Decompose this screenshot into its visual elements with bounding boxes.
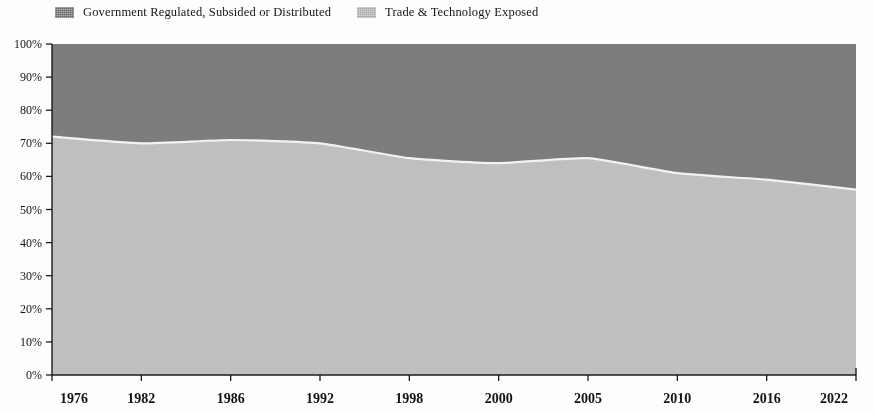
- y-axis-tick-label: 50%: [20, 203, 42, 217]
- x-axis-tick-label: 1998: [395, 391, 423, 406]
- legend-item-government-regulated[interactable]: Government Regulated, Subsided or Distri…: [55, 5, 331, 20]
- x-axis-tick-label: 2000: [485, 391, 513, 406]
- x-axis-tick-label: 1976: [60, 391, 88, 406]
- x-axis-tick-label: 2016: [753, 391, 781, 406]
- legend-item-trade-technology-exposed[interactable]: Trade & Technology Exposed: [357, 5, 538, 20]
- x-axis-tick-label: 2005: [574, 391, 602, 406]
- y-axis-tick-label: 90%: [20, 70, 42, 84]
- legend-swatch-icon: [55, 7, 74, 18]
- x-axis-tick-label: 2010: [663, 391, 691, 406]
- y-axis-tick-label: 60%: [20, 169, 42, 183]
- y-axis-tick-label: 20%: [20, 302, 42, 316]
- y-axis-tick-label: 100%: [14, 37, 42, 51]
- plot-area: 0%10%20%30%40%50%60%70%80%90%100% 197619…: [0, 24, 874, 412]
- legend-label: Trade & Technology Exposed: [385, 5, 538, 20]
- y-axis-ticks: 0%10%20%30%40%50%60%70%80%90%100%: [14, 37, 52, 382]
- y-axis-tick-label: 0%: [26, 368, 42, 382]
- chart-legend: Government Regulated, Subsided or Distri…: [0, 0, 874, 24]
- y-axis-tick-label: 40%: [20, 236, 42, 250]
- x-axis-tick-label: 2022: [820, 391, 848, 406]
- y-axis-tick-label: 10%: [20, 335, 42, 349]
- y-axis-tick-label: 80%: [20, 103, 42, 117]
- legend-swatch-icon: [357, 7, 376, 18]
- legend-label: Government Regulated, Subsided or Distri…: [83, 5, 331, 20]
- y-axis-tick-label: 70%: [20, 136, 42, 150]
- x-axis-tick-label: 1982: [127, 391, 155, 406]
- x-axis-tick-label: 1986: [217, 391, 245, 406]
- y-axis-tick-label: 30%: [20, 269, 42, 283]
- chart-svg: 0%10%20%30%40%50%60%70%80%90%100% 197619…: [0, 24, 874, 412]
- stacked-area-chart: Government Regulated, Subsided or Distri…: [0, 0, 874, 412]
- x-axis-ticks: 1976198219861992199820002005201020162022: [52, 375, 856, 406]
- x-axis-tick-label: 1992: [306, 391, 334, 406]
